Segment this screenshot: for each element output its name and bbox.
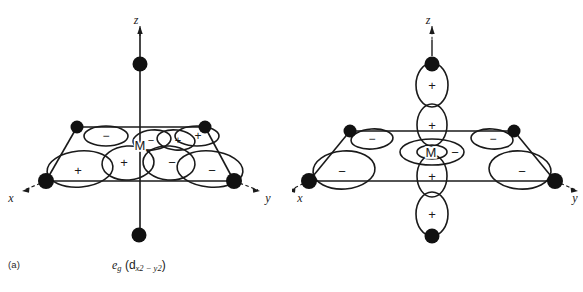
ligand-back-left xyxy=(71,121,84,134)
sign-lobe-front-left: + xyxy=(74,163,82,178)
axis-label-y: y xyxy=(571,191,578,205)
axis-label-z: z xyxy=(133,13,139,27)
sign-lobe-inner-back-left: − xyxy=(148,134,154,146)
panel-a-dx2y2: − − + + + + − − M M z x y (a) xyxy=(0,0,291,292)
axis-arrow-y xyxy=(253,188,260,193)
ligand-back-left xyxy=(344,125,357,138)
panel-b-drawing: + + + + − − − − − M M z x y xyxy=(292,0,583,292)
sign-lobe-back-left: − xyxy=(368,132,375,146)
ligand-front-right xyxy=(547,173,563,189)
axis-label-x: x xyxy=(296,191,303,205)
axis-label-x: x xyxy=(7,191,14,205)
sign-lobe-inner-front-right: − xyxy=(168,155,176,170)
sign-lobe-front-right: − xyxy=(518,164,526,179)
ligand-back-right xyxy=(508,125,521,138)
sign-lobe-z-upper-inner: + xyxy=(428,118,436,133)
panel-label-a: (a) xyxy=(8,259,20,270)
sign-lobe-z-upper-outer: + xyxy=(428,78,436,93)
axis-arrow-x xyxy=(22,188,30,193)
sign-lobe-back-right: − xyxy=(489,132,496,146)
axis-arrow-z xyxy=(429,26,434,34)
lobe-inner-front-left xyxy=(101,144,155,182)
ligand-front-left xyxy=(38,173,54,189)
ligand-top-z xyxy=(133,57,148,72)
sign-lobe-inner-back-right: + xyxy=(175,134,181,146)
panel-a-drawing: − − + + + + − − M M z x y xyxy=(0,0,291,292)
orbital-diagram-figure: − − + + + + − − M M z x y (a) xyxy=(0,0,583,292)
ligand-bottom-z xyxy=(425,229,440,244)
ligand-front-right xyxy=(226,173,242,189)
metal-center-label-a: M xyxy=(135,138,146,153)
sign-lobe-inner-front-left: + xyxy=(120,155,128,170)
sign-lobe-front-right: − xyxy=(208,163,216,178)
caption-a-open: (d xyxy=(122,258,136,272)
metal-center-label-b: M xyxy=(426,145,437,160)
ligand-front-left xyxy=(301,173,317,189)
axis-label-z: z xyxy=(425,13,431,27)
sign-lobe-back-left: − xyxy=(102,129,109,143)
axis-label-y: y xyxy=(264,191,271,205)
caption-a: eg (dx2 − y2) xyxy=(112,258,166,273)
panel-b-dz2: + + + + − − − − − M M z x y (b) xyxy=(292,0,583,292)
sign-lobe-front-left: − xyxy=(338,164,346,179)
caption-a-descriptor: x2 − y2 xyxy=(136,263,162,273)
ligand-top-z xyxy=(425,57,440,72)
axis-arrow-x xyxy=(292,188,296,193)
ligand-bottom-z xyxy=(132,228,147,243)
edge-fl-bl xyxy=(46,127,77,181)
sign-lobe-z-lower-inner: + xyxy=(428,169,436,184)
sign-lobe-z-lower-outer: + xyxy=(428,207,436,222)
sign-lobe-torus-right: − xyxy=(451,145,459,160)
sign-lobe-back-right: + xyxy=(194,129,201,143)
caption-a-close: ) xyxy=(162,258,166,272)
